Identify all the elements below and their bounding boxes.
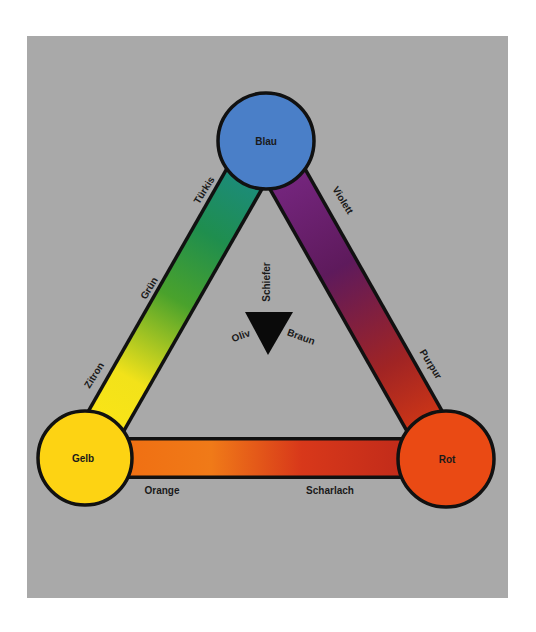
center-label-schiefer: Schiefer bbox=[261, 262, 272, 302]
center-triangle-icon bbox=[245, 312, 293, 355]
edge-left-bar bbox=[85, 141, 266, 458]
primary-circle-rot: Rot bbox=[398, 411, 494, 507]
primary-label-rot: Rot bbox=[439, 454, 456, 465]
edge-label-orange: Orange bbox=[144, 485, 179, 496]
primary-label-blau: Blau bbox=[255, 136, 277, 147]
center-label-braun: Braun bbox=[286, 327, 317, 347]
center-label-oliv: Oliv bbox=[230, 327, 252, 344]
edge-right-bar bbox=[266, 141, 446, 459]
edge-label-scharlach: Scharlach bbox=[306, 485, 354, 496]
color-triangle-diagram: Blau Gelb Rot Zitron Grün Türkis Violett… bbox=[0, 0, 536, 632]
primary-circle-blau: Blau bbox=[218, 93, 314, 189]
primary-circle-gelb: Gelb bbox=[38, 411, 132, 505]
edge-label-violett: Violett bbox=[330, 184, 356, 216]
primary-label-gelb: Gelb bbox=[72, 453, 94, 464]
